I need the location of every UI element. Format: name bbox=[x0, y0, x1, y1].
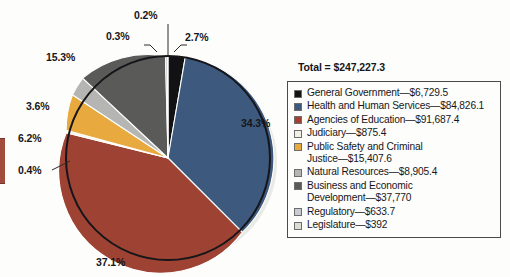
pie-label-natural-resources: 3.6% bbox=[26, 100, 50, 112]
legend-item-label: General Government—$6,729.5 bbox=[307, 87, 448, 99]
swatch-health-human-services bbox=[294, 103, 302, 111]
legend-item[interactable]: Public Safety and Criminal Justice—$15,4… bbox=[294, 141, 496, 166]
leader-line-03 bbox=[150, 45, 157, 52]
legend-item-label: Judiciary—$875.4 bbox=[307, 127, 386, 139]
swatch-natural-resources bbox=[294, 169, 302, 177]
swatch-agencies-of-education bbox=[294, 116, 302, 124]
legend-item-label: Health and Human Services—$84,826.1 bbox=[307, 100, 484, 112]
legend-item[interactable]: Judiciary—$875.4 bbox=[294, 127, 496, 139]
swatch-public-safety-criminal-justice bbox=[294, 143, 302, 151]
legend-item[interactable]: Regulatory—$633.7 bbox=[294, 206, 496, 218]
legend-box: General Government—$6,729.5Health and Hu… bbox=[287, 81, 501, 238]
swatch-regulatory bbox=[294, 208, 302, 216]
legend-item[interactable]: Business and Economic Development—$37,77… bbox=[294, 180, 496, 205]
swatch-business-economic-development bbox=[294, 182, 302, 190]
pie-label-agencies-of-education: 37.1% bbox=[96, 256, 125, 268]
pie-label-general-government: 2.7% bbox=[185, 31, 209, 43]
legend-item-label: Public Safety and Criminal Justice—$15,4… bbox=[307, 141, 423, 166]
pie-label-legislature: 0.2% bbox=[134, 9, 158, 21]
legend-item-label: Legislature—$392 bbox=[307, 219, 387, 231]
swatch-judiciary bbox=[294, 130, 302, 138]
legend-item[interactable]: General Government—$6,729.5 bbox=[294, 87, 496, 99]
legend-item-label: Agencies of Education—$91,687.4 bbox=[307, 114, 459, 126]
legend-item[interactable]: Legislature—$392 bbox=[294, 219, 496, 231]
leader-line-27 bbox=[174, 45, 181, 52]
legend-item-label: Business and Economic Development—$37,77… bbox=[307, 180, 413, 205]
legend-item-label: Regulatory—$633.7 bbox=[307, 206, 395, 218]
swatch-legislature bbox=[294, 222, 302, 230]
legend-item[interactable]: Natural Resources—$8,905.4 bbox=[294, 166, 496, 178]
pie-label-health-human-services: 34.3% bbox=[241, 117, 270, 129]
pie-label-business-economic-development: 15.3% bbox=[46, 51, 75, 63]
legend-panel: Total = $247,227.3 General Government—$6… bbox=[284, 0, 510, 277]
scan-edge-artifact bbox=[0, 138, 5, 184]
total-label: Total = $247,227.3 bbox=[298, 61, 385, 73]
pie-chart-svg bbox=[0, 0, 280, 277]
chart-root: 34.3% 37.1% 15.3% 3.6% 6.2% 0.4% 0.3% 0.… bbox=[0, 0, 510, 277]
legend-item-label: Natural Resources—$8,905.4 bbox=[307, 166, 437, 178]
legend-item[interactable]: Agencies of Education—$91,687.4 bbox=[294, 114, 496, 126]
swatch-general-government bbox=[294, 90, 302, 98]
pie-label-judiciary: 0.4% bbox=[18, 164, 42, 176]
pie-label-regulatory: 0.3% bbox=[106, 30, 130, 42]
pie-chart-area: 34.3% 37.1% 15.3% 3.6% 6.2% 0.4% 0.3% 0.… bbox=[0, 0, 280, 277]
pie-label-public-safety-criminal-justice: 6.2% bbox=[18, 132, 42, 144]
legend-item[interactable]: Health and Human Services—$84,826.1 bbox=[294, 100, 496, 112]
